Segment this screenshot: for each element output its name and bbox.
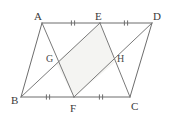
label-A: A [34, 10, 42, 22]
label-H: H [117, 53, 124, 64]
label-C: C [131, 100, 138, 112]
segment-AB [21, 23, 42, 97]
label-D: D [153, 10, 161, 22]
label-G: G [46, 53, 53, 64]
label-F: F [70, 102, 76, 114]
label-E: E [95, 10, 102, 22]
label-B: B [11, 94, 18, 106]
geometry-figure-container: AEDBFCGH [0, 0, 171, 120]
geometry-figure-svg: AEDBFCGH [0, 0, 171, 120]
